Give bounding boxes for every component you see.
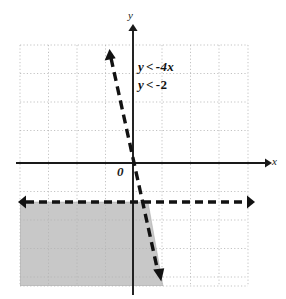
coordinate-plane xyxy=(0,0,286,299)
origin-label: 0 xyxy=(117,164,124,180)
y-axis-label: y xyxy=(128,9,133,21)
inequality-1-expression: -4x xyxy=(156,59,174,74)
inequality-annotation-1: y<-4x xyxy=(138,58,174,76)
inequality-2-expression: -2 xyxy=(156,77,167,92)
inequality-graph-figure: y x 0 y<-4x y<-2 xyxy=(0,0,286,299)
shaded-solution-region xyxy=(20,202,163,286)
x-axis-label: x xyxy=(272,155,277,167)
x-axis xyxy=(16,158,272,167)
inequality-annotations: y<-4x y<-2 xyxy=(138,58,174,95)
inequality-annotation-2: y<-2 xyxy=(138,76,174,94)
inequality-2-relation: < xyxy=(144,77,156,92)
inequality-1-relation: < xyxy=(144,59,156,74)
